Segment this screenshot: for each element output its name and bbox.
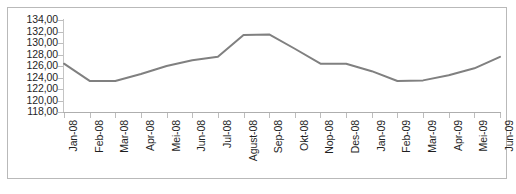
x-tick-label: Jun-09 <box>504 120 515 178</box>
y-tick-label: 134,00 <box>2 14 58 25</box>
y-tick-label: 130,00 <box>2 37 58 48</box>
y-tick-mark <box>58 32 63 33</box>
x-tick-mark <box>141 113 142 118</box>
x-tick-mark <box>372 113 373 118</box>
x-tick-mark <box>244 113 245 118</box>
y-tick-label: 128,00 <box>2 49 58 60</box>
y-tick-mark <box>58 66 63 67</box>
x-tick-mark <box>474 113 475 118</box>
x-tick-label: Jan-09 <box>376 120 387 178</box>
figure-caption <box>8 185 508 194</box>
x-tick-mark <box>167 113 168 118</box>
x-tick-label: Apr-09 <box>453 120 464 178</box>
x-axis-line <box>56 112 501 113</box>
x-tick-mark <box>397 113 398 118</box>
x-tick-mark <box>269 113 270 118</box>
x-tick-label: Mar-09 <box>427 120 438 178</box>
series-polyline <box>64 34 500 81</box>
x-tick-label: Feb-09 <box>401 120 412 178</box>
x-tick-mark <box>218 113 219 118</box>
y-tick-label: 126,00 <box>2 60 58 71</box>
y-tick-mark <box>58 55 63 56</box>
y-tick-label: 132,00 <box>2 26 58 37</box>
y-tick-mark <box>58 101 63 102</box>
x-tick-mark <box>295 113 296 118</box>
x-tick-label: Feb-08 <box>94 120 105 178</box>
line-series-ipr <box>64 20 500 112</box>
y-tick-label: 124,00 <box>2 72 58 83</box>
x-tick-label: Jul-08 <box>222 120 233 178</box>
x-tick-label: Mei-08 <box>171 120 182 178</box>
chart-figure: 134,00132,00130,00128,00126,00124,00122,… <box>0 0 516 194</box>
x-tick-mark <box>346 113 347 118</box>
y-tick-label: 118,00 <box>2 106 58 117</box>
y-tick-label: 122,00 <box>2 83 58 94</box>
y-tick-mark <box>58 112 63 113</box>
x-tick-mark <box>90 113 91 118</box>
x-tick-mark <box>449 113 450 118</box>
x-tick-mark <box>192 113 193 118</box>
y-tick-label: 120,00 <box>2 95 58 106</box>
x-tick-label: Jun-08 <box>196 120 207 178</box>
x-tick-label: Agust-08 <box>248 120 259 178</box>
x-axis-labels: Jan-08Feb-08Mar-08Apr-08Mei-08Jun-08Jul-… <box>0 120 516 178</box>
x-tick-label: Des-08 <box>350 120 361 178</box>
y-tick-mark <box>58 78 63 79</box>
plot-area <box>64 20 500 112</box>
x-tick-label: Okt-08 <box>299 120 310 178</box>
x-tick-mark <box>320 113 321 118</box>
x-tick-label: Sep-08 <box>273 120 284 178</box>
y-tick-mark <box>58 89 63 90</box>
y-tick-mark <box>58 20 63 21</box>
x-tick-mark <box>115 113 116 118</box>
x-tick-label: Nop-08 <box>324 120 335 178</box>
x-tick-label: Mar-08 <box>119 120 130 178</box>
x-tick-mark <box>500 113 501 118</box>
x-tick-label: Apr-08 <box>145 120 156 178</box>
y-tick-mark <box>58 43 63 44</box>
x-tick-mark <box>423 113 424 118</box>
x-tick-label: Mei-09 <box>478 120 489 178</box>
x-tick-label: Jan-08 <box>68 120 79 178</box>
y-axis-labels: 134,00132,00130,00128,00126,00124,00122,… <box>0 0 58 118</box>
x-tick-mark <box>64 113 65 118</box>
